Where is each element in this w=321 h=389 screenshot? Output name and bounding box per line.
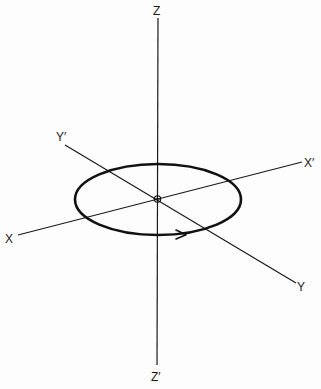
label-z-prime: Z′	[151, 370, 161, 384]
label-x: X	[5, 232, 13, 246]
label-y: Y	[297, 280, 305, 294]
label-x-prime: X′	[304, 156, 315, 170]
diagram-page: Z Z′ X X′ Y Y′	[0, 0, 321, 389]
origin-marker-icon	[154, 196, 160, 202]
z-axis-line	[157, 18, 158, 365]
label-y-prime: Y′	[56, 130, 67, 144]
axes-orbit-diagram: Z Z′ X X′ Y Y′	[0, 0, 321, 389]
label-z: Z	[153, 4, 160, 18]
